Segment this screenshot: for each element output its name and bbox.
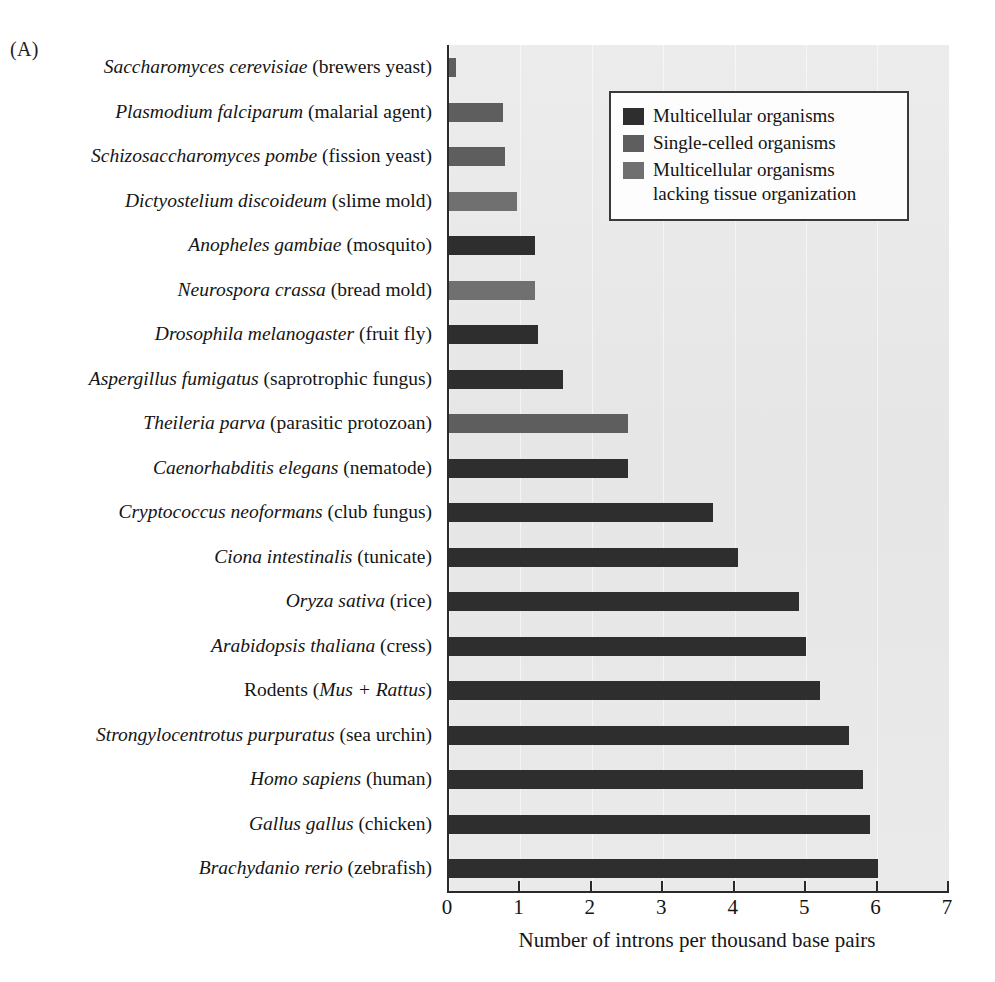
tick-label: 5: [789, 895, 819, 920]
bar-row: [449, 357, 949, 402]
category-label: Drosophila melanogaster (fruit fly): [155, 312, 432, 357]
category-label: Neurospora crassa (bread mold): [178, 268, 432, 313]
legend-label: Multicellular organisms: [653, 104, 835, 128]
x-axis-ticks: 01234567: [447, 891, 947, 931]
bar-row: [449, 45, 949, 90]
legend-item: Multicellular organisms: [623, 104, 895, 128]
legend-item: Multicellular organisms lacking tissue o…: [623, 158, 895, 206]
category-label: Brachydanio rerio (zebrafish): [199, 846, 432, 891]
tick-label: 3: [646, 895, 676, 920]
bar: [449, 192, 517, 211]
tick-mark: [947, 881, 949, 891]
bar: [449, 859, 878, 878]
bar: [449, 281, 535, 300]
category-label: Caenorhabditis elegans (nematode): [153, 446, 432, 491]
category-label: Ciona intestinalis (tunicate): [214, 535, 432, 580]
legend-label: Multicellular organisms lacking tissue o…: [653, 158, 895, 206]
bar-row: [449, 846, 949, 891]
tick-mark: [804, 881, 806, 891]
category-label: Saccharomyces cerevisiae (brewers yeast): [104, 45, 432, 90]
tick-mark: [590, 881, 592, 891]
bar-row: [449, 713, 949, 758]
category-label: Theileria parva (parasitic protozoan): [143, 401, 432, 446]
bar: [449, 815, 870, 834]
tick-mark: [733, 881, 735, 891]
legend-item: Single-celled organisms: [623, 131, 895, 155]
bar: [449, 236, 535, 255]
bar-row: [449, 223, 949, 268]
category-label: Schizosaccharomyces pombe (fission yeast…: [91, 134, 432, 179]
bar-row: [449, 757, 949, 802]
tick-label: 1: [503, 895, 533, 920]
category-label: Homo sapiens (human): [250, 757, 432, 802]
tick-label: 7: [932, 895, 962, 920]
legend-swatch-multicellular-no-tissue: [623, 162, 644, 179]
tick-label: 2: [575, 895, 605, 920]
bar-row: [449, 401, 949, 446]
bar: [449, 637, 806, 656]
category-label: Rodents (Mus + Rattus): [244, 668, 432, 713]
category-label: Oryza sativa (rice): [286, 579, 432, 624]
bar: [449, 681, 820, 700]
tick-mark: [447, 881, 449, 891]
tick-label: 4: [718, 895, 748, 920]
bar: [449, 414, 628, 433]
bar-row: [449, 624, 949, 669]
bar: [449, 370, 563, 389]
category-label: Gallus gallus (chicken): [249, 802, 432, 847]
legend: Multicellular organisms Single-celled or…: [609, 91, 909, 221]
bar: [449, 58, 456, 77]
category-label: Anopheles gambiae (mosquito): [188, 223, 432, 268]
bar-row: [449, 802, 949, 847]
bar: [449, 325, 538, 344]
tick-mark: [876, 881, 878, 891]
tick-label: 0: [432, 895, 462, 920]
bar: [449, 503, 713, 522]
category-label: Aspergillus fumigatus (saprotrophic fung…: [89, 357, 432, 402]
bar: [449, 147, 505, 166]
bar: [449, 726, 849, 745]
bar-row: [449, 668, 949, 713]
bar: [449, 103, 503, 122]
bar-row: [449, 490, 949, 535]
x-axis-title: Number of introns per thousand base pair…: [447, 928, 947, 953]
category-label: Plasmodium falciparum (malarial agent): [115, 90, 432, 135]
legend-swatch-single-celled: [623, 135, 644, 152]
category-label-column: Saccharomyces cerevisiae (brewers yeast)…: [0, 45, 440, 891]
tick-mark: [518, 881, 520, 891]
bar: [449, 459, 628, 478]
tick-label: 6: [861, 895, 891, 920]
category-label: Arabidopsis thaliana (cress): [211, 624, 432, 669]
legend-swatch-multicellular: [623, 108, 644, 125]
bar-row: [449, 579, 949, 624]
bar: [449, 770, 863, 789]
bar-row: [449, 535, 949, 580]
category-label: Dictyostelium discoideum (slime mold): [125, 179, 432, 224]
bar-row: [449, 312, 949, 357]
legend-label: Single-celled organisms: [653, 131, 836, 155]
category-label: Strongylocentrotus purpuratus (sea urchi…: [96, 713, 432, 758]
tick-mark: [661, 881, 663, 891]
category-label: Cryptococcus neoformans (club fungus): [118, 490, 432, 535]
bar: [449, 548, 738, 567]
bar: [449, 592, 799, 611]
bar-row: [449, 446, 949, 491]
intron-density-figure: (A) Saccharomyces cerevisiae (brewers ye…: [0, 0, 995, 982]
bar-row: [449, 268, 949, 313]
